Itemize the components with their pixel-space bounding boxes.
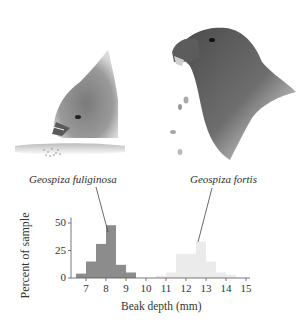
histogram-bar bbox=[106, 225, 116, 278]
histogram-bar bbox=[226, 275, 236, 278]
histogram-bar bbox=[116, 265, 126, 278]
y-tick-label: 25 bbox=[46, 244, 66, 256]
y-tick-label: 50 bbox=[46, 216, 66, 228]
histogram-bar bbox=[176, 254, 186, 278]
x-tick-label: 9 bbox=[123, 282, 129, 294]
x-tick-label: 10 bbox=[141, 282, 152, 294]
histogram-bar bbox=[126, 273, 136, 279]
x-tick-label: 15 bbox=[241, 282, 252, 294]
x-tick-label: 13 bbox=[201, 282, 212, 294]
x-tick-label: 7 bbox=[83, 282, 89, 294]
x-tick-label: 14 bbox=[221, 282, 232, 294]
x-tick-label: 8 bbox=[103, 282, 109, 294]
histogram-bar bbox=[206, 262, 216, 279]
fortis-bars bbox=[156, 242, 236, 278]
y-tick-label: 0 bbox=[46, 271, 66, 283]
histogram-bar bbox=[186, 254, 196, 278]
x-axis-label: Beak depth (mm) bbox=[121, 300, 201, 312]
histogram-bar bbox=[76, 274, 86, 278]
histogram-bar bbox=[216, 273, 226, 279]
pointer-fortis bbox=[198, 188, 212, 242]
histogram-bar bbox=[166, 273, 176, 279]
pointer-fuliginosa bbox=[96, 187, 108, 232]
x-tick-label: 11 bbox=[161, 282, 172, 294]
histogram-bar bbox=[196, 242, 206, 278]
histogram-bar bbox=[96, 244, 106, 278]
y-axis-label: Percent of sample bbox=[18, 201, 33, 311]
histogram-bar bbox=[86, 262, 96, 279]
x-tick-label: 12 bbox=[181, 282, 192, 294]
fuliginosa-bars bbox=[76, 225, 136, 278]
